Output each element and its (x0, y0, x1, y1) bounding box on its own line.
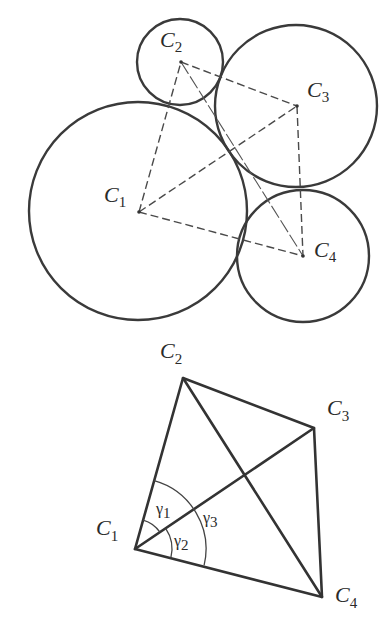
center-dot-c1 (137, 210, 141, 214)
angle-arc-gamma2 (166, 528, 172, 557)
label-top-c4: C4 (314, 237, 337, 265)
dashed-line-c2-c4 (181, 62, 303, 256)
dashed-line-c1-c2 (139, 62, 181, 212)
label-bottom-c2: C2 (160, 338, 182, 367)
center-dot-c4 (301, 254, 305, 258)
label-gamma3: γ3 (202, 509, 218, 530)
angle-arc-gamma3 (154, 481, 206, 566)
label-gamma1: γ1 (155, 500, 171, 521)
tangent-circles-figure: C1 C2 C3 C4 (29, 19, 377, 322)
label-bottom-c4: C4 (335, 582, 358, 611)
dashed-line-c1-c4 (139, 212, 303, 256)
quadrilateral-figure: C1 C2 C3 C4 γ1 γ2 γ3 (96, 338, 358, 611)
center-dot-c3 (295, 104, 299, 108)
label-top-c3: C3 (307, 77, 329, 105)
dashed-line-c3-c4 (297, 106, 303, 256)
label-top-c1: C1 (104, 182, 126, 210)
label-bottom-c1: C1 (96, 515, 118, 544)
angle-arc-gamma1 (143, 520, 160, 532)
label-bottom-c3: C3 (327, 395, 349, 424)
dashed-line-c2-c3 (181, 62, 297, 106)
diagram-canvas: C1 C2 C3 C4 C1 C2 C3 C4 γ1 γ2 γ3 (0, 0, 387, 628)
diagonal-c1-c3 (135, 428, 314, 549)
label-top-c2: C2 (160, 27, 182, 55)
quadrilateral-outline (135, 378, 322, 597)
label-gamma2: γ2 (173, 532, 189, 553)
center-dot-c2 (179, 60, 183, 64)
